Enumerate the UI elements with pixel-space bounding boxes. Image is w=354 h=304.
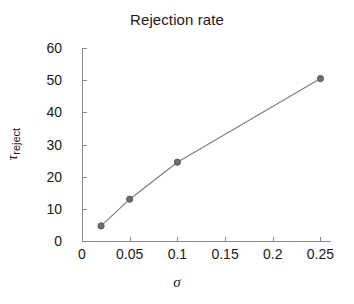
y-tick-mark bbox=[83, 80, 87, 81]
y-tick-label: 20 bbox=[46, 169, 62, 185]
y-tick-mark bbox=[83, 209, 87, 210]
series-markers bbox=[98, 75, 324, 229]
x-tick-label: 0.15 bbox=[211, 246, 238, 262]
x-tick-label: 0.25 bbox=[307, 246, 334, 262]
x-axis-line bbox=[82, 241, 331, 242]
y-tick-mark bbox=[83, 145, 87, 146]
x-tick-label: 0.2 bbox=[263, 246, 282, 262]
data-point-marker bbox=[174, 159, 180, 165]
chart-figure: Rejection rate 0102030405060 00.050.10.1… bbox=[0, 0, 354, 304]
y-tick-label: 60 bbox=[46, 40, 62, 56]
y-tick-label: 50 bbox=[46, 72, 62, 88]
y-tick-label: 10 bbox=[46, 201, 62, 217]
y-axis-label: τreject bbox=[3, 128, 22, 160]
y-axis-label-subscript: reject bbox=[10, 128, 22, 155]
x-tick-mark bbox=[225, 237, 226, 241]
x-tick-label: 0.1 bbox=[168, 246, 187, 262]
y-tick-mark bbox=[83, 177, 87, 178]
x-tick-label: 0.05 bbox=[116, 246, 143, 262]
y-tick-label: 0 bbox=[54, 233, 62, 249]
x-tick-mark bbox=[177, 237, 178, 241]
data-point-marker bbox=[127, 196, 133, 202]
series-line bbox=[101, 79, 320, 226]
x-tick-label: 0 bbox=[78, 246, 86, 262]
y-tick-mark bbox=[83, 241, 87, 242]
data-point-marker bbox=[98, 223, 104, 229]
x-tick-mark bbox=[320, 237, 321, 241]
y-axis-label-symbol: τ bbox=[4, 155, 20, 160]
x-tick-mark bbox=[82, 237, 83, 241]
y-tick-mark bbox=[83, 112, 87, 113]
chart-title: Rejection rate bbox=[0, 11, 354, 28]
x-tick-mark bbox=[273, 237, 274, 241]
data-point-marker bbox=[317, 75, 323, 81]
y-tick-label: 40 bbox=[46, 104, 62, 120]
y-tick-label: 30 bbox=[46, 137, 62, 153]
y-tick-mark bbox=[83, 48, 87, 49]
x-tick-mark bbox=[130, 237, 131, 241]
x-axis-label: σ bbox=[0, 274, 354, 291]
